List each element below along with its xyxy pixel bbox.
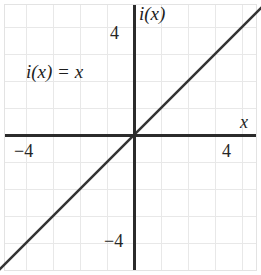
y-axis-label: i(x)	[139, 4, 165, 23]
x-axis-tick-label-positive-4: 4	[222, 142, 231, 160]
x-axis-label: x	[240, 113, 248, 131]
y-axis-tick-label-negative-4: −4	[104, 232, 123, 250]
x-axis-tick-label-negative-4: −4	[14, 142, 33, 160]
function-equation-label: i(x) = x	[26, 62, 83, 81]
y-axis-tick-label-positive-4: 4	[110, 24, 119, 42]
axes	[0, 0, 261, 275]
function-graph-figure: i(x) = x i(x) x 4 −4 −4 4	[0, 0, 261, 275]
